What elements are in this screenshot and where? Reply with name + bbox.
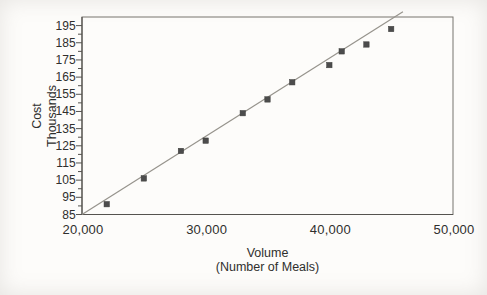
x-tick-label: 40,000 (310, 223, 351, 237)
y-tick-label: 105 (38, 173, 76, 187)
plot-border (82, 17, 453, 215)
data-point (339, 49, 344, 54)
data-point (141, 176, 146, 181)
data-point (104, 201, 109, 206)
scatter-chart-figure: 1951851751651551451351251151059585 20,00… (0, 0, 487, 295)
y-tick-label: 85 (38, 208, 76, 222)
x-tick-label: 20,000 (63, 223, 104, 237)
data-point (240, 110, 245, 115)
y-tick-label: 175 (38, 53, 76, 67)
x-tick-label: 30,000 (186, 223, 227, 237)
y-axis-title-line2: Thousands (45, 76, 60, 156)
data-point (327, 62, 332, 67)
axis-lines (82, 17, 453, 215)
y-axis-title: Cost Thousands (30, 76, 60, 156)
y-tick-label: 195 (38, 19, 76, 33)
y-tick-label: 115 (38, 156, 76, 170)
x-axis-title: Volume (Number of Meals) (82, 246, 453, 274)
data-point (265, 97, 270, 102)
y-tick-label: 185 (38, 36, 76, 50)
x-tick-label: 50,000 (434, 223, 475, 237)
x-axis-title-line2: (Number of Meals) (82, 260, 453, 274)
y-axis-title-line1: Cost (30, 76, 45, 156)
x-axis-title-line1: Volume (82, 246, 453, 260)
y-tick-label: 95 (38, 190, 76, 204)
data-point (364, 42, 369, 47)
data-point (203, 138, 208, 143)
data-point (178, 148, 183, 153)
data-point (388, 26, 393, 31)
data-point (290, 80, 295, 85)
